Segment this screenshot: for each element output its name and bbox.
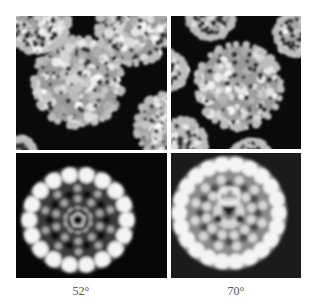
- density-hole: [51, 200, 59, 208]
- inner-lobe: [232, 242, 241, 251]
- neighbor-particle: [185, 16, 237, 42]
- rim-lobe: [95, 252, 111, 268]
- inner-lobe: [61, 200, 68, 207]
- inner-lobe: [96, 210, 103, 217]
- inner-lobe: [191, 216, 200, 225]
- density-hole: [51, 232, 59, 240]
- rim-lobe: [200, 160, 216, 176]
- rim-lobe: [171, 205, 187, 221]
- rim-lobe: [271, 205, 287, 221]
- inner-lobe: [191, 198, 200, 207]
- inner-lobe: [107, 226, 114, 233]
- inner-lobe: [75, 248, 82, 255]
- rim-lobe: [62, 257, 78, 273]
- reconstruction-density: [21, 167, 135, 273]
- rim-lobe: [116, 196, 132, 212]
- rim-lobe: [62, 167, 78, 183]
- inner-lobe: [236, 206, 245, 215]
- inner-lobe: [199, 232, 208, 241]
- micrograph-52-image: [16, 16, 167, 150]
- rim-lobe: [214, 254, 230, 270]
- density-hole: [200, 195, 208, 203]
- inner-lobe: [214, 241, 223, 250]
- density-hole: [83, 241, 91, 249]
- inner-lobe: [53, 223, 60, 230]
- inner-lobe: [235, 176, 244, 185]
- inner-lobe: [42, 227, 49, 234]
- inner-lobe: [74, 185, 81, 192]
- density-hole: [250, 223, 258, 231]
- rim-lobe: [32, 183, 48, 199]
- rim-lobe: [108, 241, 124, 257]
- inner-lobe: [218, 230, 227, 239]
- reconstruction-52-image: [16, 153, 167, 278]
- density-hole: [196, 209, 204, 217]
- inner-lobe: [258, 219, 267, 228]
- neighbor-particle: [133, 91, 167, 150]
- rim-lobe: [21, 212, 37, 228]
- neighbor-particle: [229, 137, 273, 149]
- inner-lobe: [96, 223, 103, 230]
- inner-lobe: [55, 243, 62, 250]
- inner-lobe: [202, 202, 211, 211]
- inner-lobe: [61, 234, 68, 241]
- density-hole: [254, 209, 262, 217]
- inner-lobe: [88, 234, 95, 241]
- density-hole: [65, 191, 73, 199]
- density-hole: [250, 195, 258, 203]
- density-hole: [211, 184, 219, 192]
- density-hole: [83, 191, 91, 199]
- rim-lobe: [116, 228, 132, 244]
- density-hole: [103, 216, 111, 224]
- neighbor-particle: [272, 16, 302, 58]
- inner-lobe: [54, 191, 61, 198]
- rim-lobe: [79, 257, 95, 273]
- density-hole: [225, 238, 233, 246]
- neighbor-particle: [16, 134, 38, 150]
- rim-lobe: [95, 173, 111, 189]
- inner-lobe: [74, 195, 81, 202]
- tilt-angle-label-70: 70°: [216, 284, 256, 299]
- rim-lobe: [108, 183, 124, 199]
- rim-lobe: [46, 173, 62, 189]
- density-hole: [240, 184, 248, 192]
- inner-lobe: [250, 185, 259, 194]
- inner-lobe: [209, 192, 218, 201]
- inner-lobe: [75, 238, 82, 245]
- micrograph-52-panel: [16, 16, 167, 150]
- rim-lobe: [46, 252, 62, 268]
- rim-lobe: [228, 254, 244, 270]
- rim-lobe: [242, 250, 258, 266]
- density-hole: [97, 200, 105, 208]
- density-hole: [240, 234, 248, 242]
- inner-lobe: [53, 210, 60, 217]
- density-hole: [65, 241, 73, 249]
- inner-lobe: [258, 201, 267, 210]
- density-hole: [236, 215, 244, 223]
- rim-lobe: [24, 228, 40, 244]
- inner-lobe: [248, 234, 257, 243]
- inner-lobe: [240, 225, 249, 234]
- inner-lobe: [242, 193, 251, 202]
- reconstruction-density: [171, 156, 287, 270]
- reconstruction-52-panel: [16, 153, 167, 278]
- density-hole: [211, 234, 219, 242]
- rim-lobe: [269, 191, 285, 207]
- density-hole: [214, 215, 222, 223]
- inner-lobe: [201, 183, 210, 192]
- inner-lobe: [208, 224, 217, 233]
- density-hole: [200, 223, 208, 231]
- inner-lobe: [42, 207, 49, 214]
- micrograph-70-panel: [171, 16, 301, 149]
- inner-lobe: [247, 215, 256, 224]
- rim-lobe: [32, 241, 48, 257]
- reconstruction-70-panel: [171, 153, 301, 278]
- inner-lobe: [94, 191, 101, 198]
- inner-lobe: [88, 199, 95, 206]
- figure: 52° 70°: [0, 0, 314, 305]
- tilt-angle-label-52: 52°: [61, 284, 101, 299]
- reconstruction-70-image: [171, 153, 301, 278]
- rim-lobe: [214, 157, 230, 173]
- density-hole: [97, 232, 105, 240]
- neighbor-particle: [171, 49, 190, 93]
